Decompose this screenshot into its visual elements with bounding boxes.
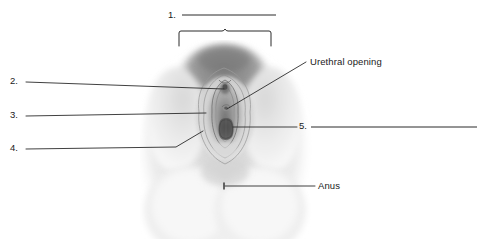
blank-number-3: 3. bbox=[10, 109, 18, 120]
blank-number-5: 5. bbox=[299, 120, 307, 131]
callout-label-urethral-opening: Urethral opening bbox=[310, 56, 382, 67]
blank-number-4: 4. bbox=[10, 142, 18, 153]
callout-label-anus: Anus bbox=[318, 180, 340, 191]
anatomy-figure bbox=[0, 0, 489, 239]
blank-number-1: 1. bbox=[168, 9, 176, 20]
blank-number-2: 2. bbox=[10, 75, 18, 86]
figure-page: 1. 2. 3. 4. 5. Urethral opening Anus bbox=[0, 0, 489, 239]
illustration-body bbox=[144, 43, 306, 239]
